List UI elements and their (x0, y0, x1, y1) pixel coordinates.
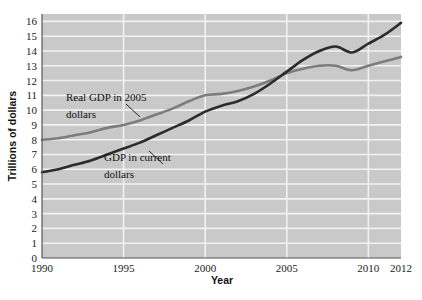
x-tick-label: 2005 (276, 262, 299, 274)
y-tick-label: 14 (26, 45, 38, 57)
y-tick-label: 3 (32, 208, 38, 220)
y-tick-label: 2 (32, 222, 38, 234)
y-tick-label: 11 (26, 89, 37, 101)
current-gdp-annotation-line-1: dollars (104, 168, 134, 180)
y-tick-label: 4 (32, 193, 38, 205)
real-gdp-annotation-line-0: Real GDP in 2005 (66, 91, 147, 103)
y-tick-label: 12 (26, 75, 37, 87)
y-tick-label: 13 (26, 60, 38, 72)
x-tick-labels-group: 199019952000200520102012 (31, 262, 412, 274)
y-tick-label: 1 (32, 237, 38, 249)
x-tick-label: 1995 (113, 262, 136, 274)
chart-canvas: 012345678910111213141516 199019952000200… (0, 0, 422, 300)
x-tick-label: 1990 (31, 262, 54, 274)
current-gdp-annotation-line-0: GDP in current (104, 151, 171, 163)
y-tick-label: 8 (32, 134, 38, 146)
y-tick-label: 10 (26, 104, 38, 116)
gdp-line-chart: 012345678910111213141516 199019952000200… (0, 0, 422, 300)
real-gdp-annotation-line-1: dollars (66, 108, 96, 120)
y-tick-label: 16 (26, 15, 38, 27)
x-tick-label: 2012 (390, 262, 412, 274)
y-tick-labels-group: 012345678910111213141516 (26, 15, 38, 264)
y-tick-label: 5 (32, 178, 38, 190)
y-tick-label: 15 (26, 30, 38, 42)
y-tick-label: 9 (32, 119, 38, 131)
x-axis-title: Year (211, 274, 233, 286)
x-tick-label: 2000 (194, 262, 217, 274)
x-tick-label: 2010 (357, 262, 380, 274)
y-axis-title: Trillions of dollars (6, 91, 18, 182)
y-tick-label: 6 (32, 163, 38, 175)
y-tick-label: 7 (32, 148, 38, 160)
